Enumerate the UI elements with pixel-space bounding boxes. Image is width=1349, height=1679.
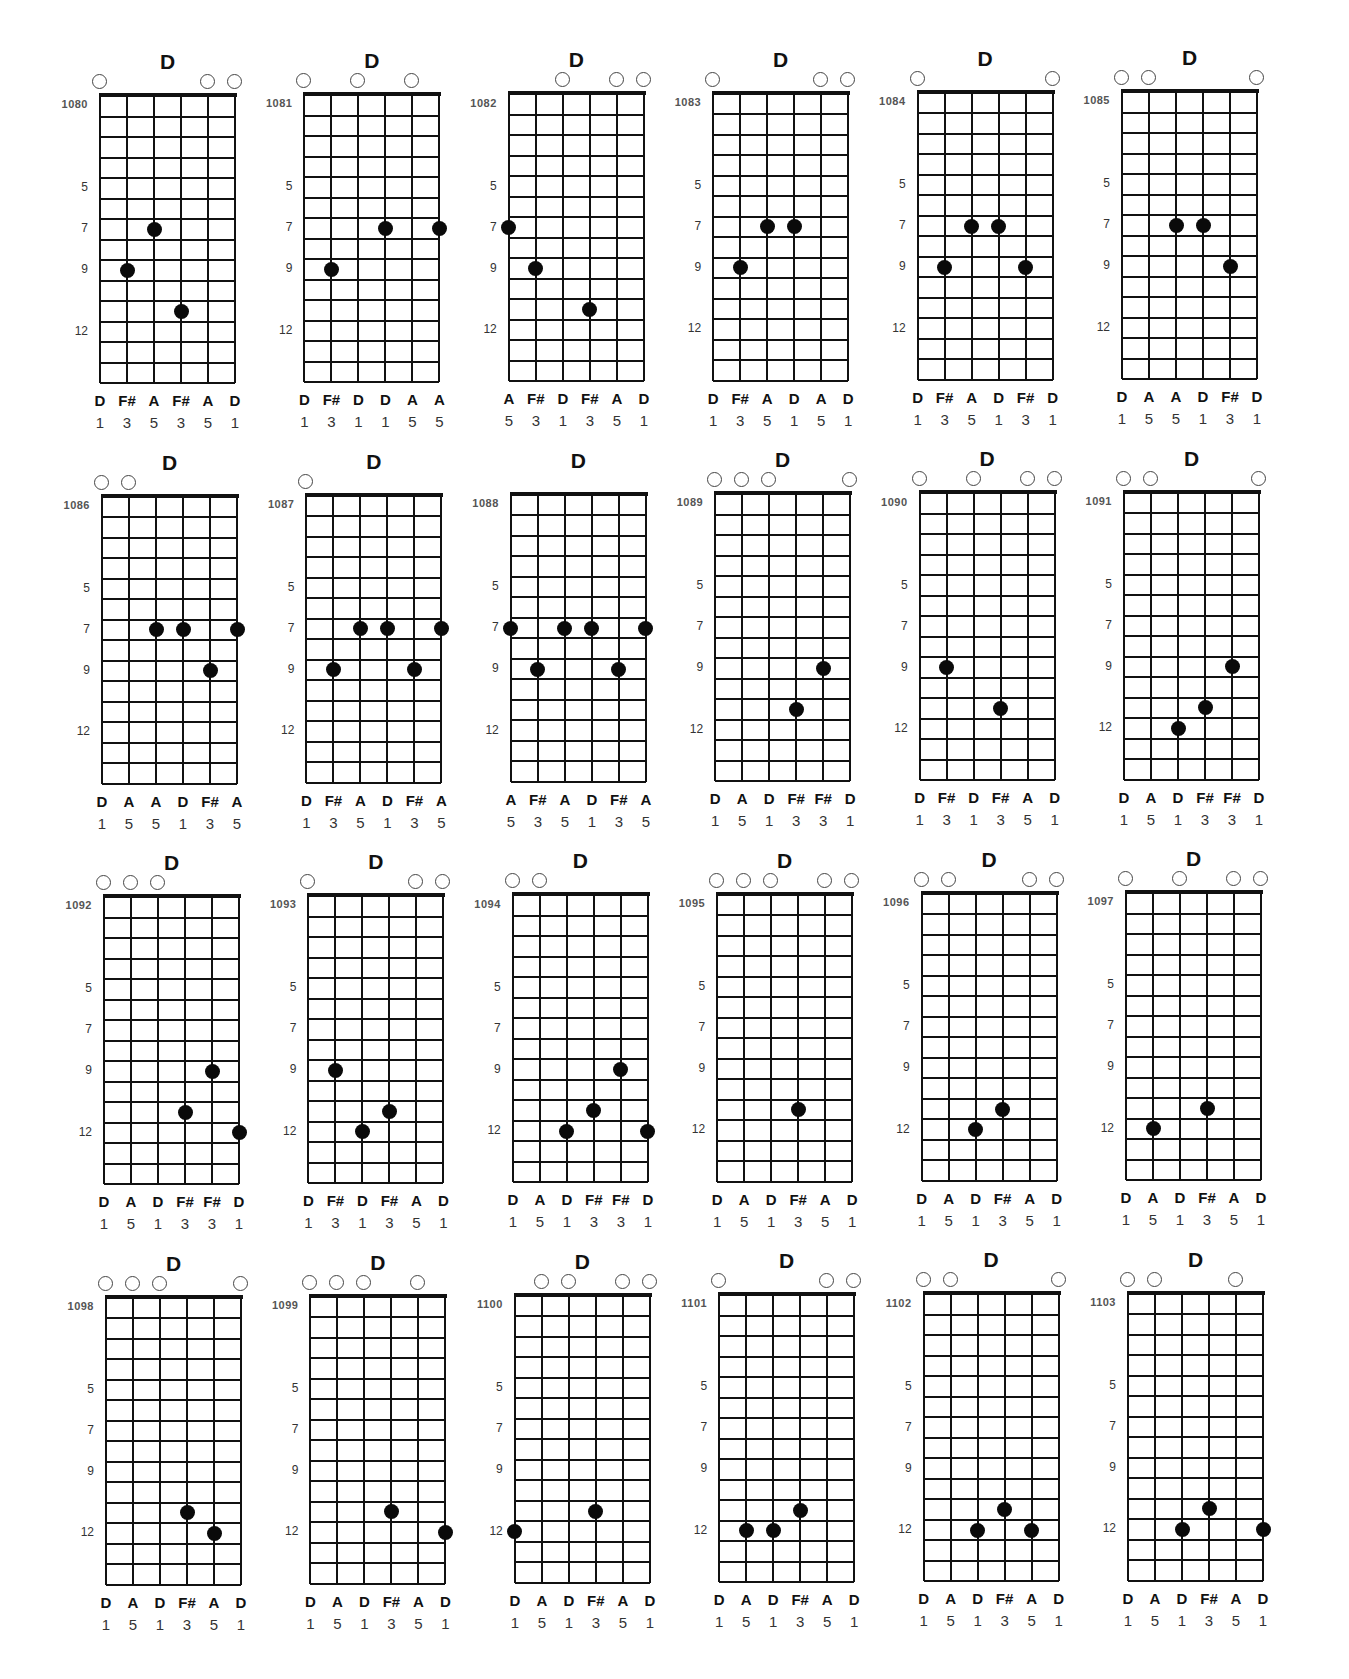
finger-dot-icon <box>559 1124 574 1139</box>
fret-marker-label: 12 <box>485 723 498 737</box>
fret-line <box>102 537 237 539</box>
fret-line <box>1122 112 1257 114</box>
interval-number-label: 1 <box>1114 1211 1138 1228</box>
chord-title: D <box>104 851 239 875</box>
interval-number-label: 5 <box>1143 1612 1167 1629</box>
string-note-label: F# <box>1218 388 1242 405</box>
chord-title: D <box>1122 46 1257 70</box>
finger-dot-icon <box>789 702 804 717</box>
fret-marker-label: 7 <box>701 1420 708 1434</box>
fret-line <box>920 574 1055 576</box>
fret-line <box>100 341 235 343</box>
open-string-circle-icon <box>94 475 109 490</box>
string-note-label: F# <box>198 793 222 810</box>
string-note-label: D <box>1249 1189 1273 1206</box>
fret-line <box>922 1139 1057 1141</box>
chord-diagram-1080: D108057912D1F#3A5F#3A5D1 <box>60 44 264 444</box>
interval-number-label: 3 <box>1195 1211 1219 1228</box>
interval-number-label: 3 <box>989 811 1013 828</box>
string-note-label: D <box>296 1192 320 1209</box>
chord-diagram-1084: D108457912D1F#3A5D1F#3D1 <box>878 41 1082 441</box>
fret-line <box>715 739 850 741</box>
finger-dot-icon <box>991 219 1006 234</box>
chord-diagram-1095: D109557912D1A5D1F#3A5D1 <box>677 843 881 1243</box>
open-string-circle-icon <box>1120 1272 1135 1287</box>
fret-marker-label: 5 <box>81 180 88 194</box>
fret-line <box>102 742 237 744</box>
fret-line <box>509 298 644 300</box>
nut <box>101 494 239 498</box>
diagram-number: 1089 <box>677 496 703 508</box>
nut <box>303 92 441 96</box>
string-note-label: F# <box>175 1594 199 1611</box>
interval-number-label: 1 <box>555 1213 579 1230</box>
fret-line <box>713 134 848 136</box>
fret-line <box>717 1058 852 1060</box>
fret-line <box>106 1502 241 1504</box>
finger-dot-icon <box>1146 1121 1161 1136</box>
finger-dot-icon <box>530 662 545 677</box>
fretboard-grid: 108557912D1A5A5D1F#3D1 <box>1122 92 1257 379</box>
finger-dot-icon <box>1024 1523 1039 1538</box>
fret-marker-label: 9 <box>494 1062 501 1076</box>
fret-marker-label: 5 <box>1107 977 1114 991</box>
fret-line <box>304 299 439 301</box>
fret-marker-label: 9 <box>290 1062 297 1076</box>
fret-marker-label: 7 <box>1107 1018 1114 1032</box>
fret-marker-label: 5 <box>1109 1378 1116 1392</box>
fret-line <box>918 194 1053 196</box>
fret-line <box>713 154 848 156</box>
string-note-label: D <box>223 392 247 409</box>
fret-line <box>511 576 646 578</box>
fret-marker-label: 12 <box>896 1122 909 1136</box>
fret-line <box>924 1457 1059 1459</box>
fret-marker-label: 12 <box>79 1125 92 1139</box>
open-string-circle-icon <box>1049 872 1064 887</box>
fret-line <box>511 760 646 762</box>
fret-line <box>511 719 646 721</box>
fret-line <box>515 1520 650 1522</box>
nut <box>99 93 237 97</box>
string-note-label: D <box>906 389 930 406</box>
interval-number-label: 1 <box>987 411 1011 428</box>
string-note-label: D <box>705 1191 729 1208</box>
diagram-number: 1080 <box>62 98 88 110</box>
chord-diagram-1088: D108857912A5F#3A5D1F#3A5 <box>471 443 675 843</box>
open-string-circle-icon <box>842 472 857 487</box>
fret-marker-label: 7 <box>288 621 295 635</box>
fret-marker-label: 9 <box>496 1462 503 1476</box>
finger-dot-icon <box>207 1526 222 1541</box>
string-note-label: D <box>1191 388 1215 405</box>
fret-line <box>922 1098 1057 1100</box>
string-note-label: A <box>611 1592 635 1609</box>
fret-line <box>513 1161 648 1163</box>
fretboard-grid: 109857912D1A5D1F#3A5D1 <box>106 1298 241 1585</box>
fret-line <box>104 1183 239 1185</box>
chord-title: D <box>715 448 850 472</box>
fret-line <box>308 936 443 938</box>
fret-line <box>308 977 443 979</box>
fret-line <box>310 1521 445 1523</box>
nut <box>1123 490 1261 494</box>
fret-line <box>1122 296 1257 298</box>
fret-line <box>924 1519 1059 1521</box>
interval-number-label: 5 <box>1016 811 1040 828</box>
string-note-label: D <box>503 1592 527 1609</box>
chord-diagram-1081: D108157912D1F#3D1D1A5A5 <box>264 43 468 443</box>
interval-number-label: 1 <box>557 1614 581 1631</box>
string-note-label: D <box>373 391 397 408</box>
fretboard-grid: 109957912D1A5D1F#3A5D1 <box>310 1297 445 1584</box>
fret-line <box>102 660 237 662</box>
string-note-label: D <box>292 391 316 408</box>
fretboard-grid: 110057912D1A5D1F#3A5D1 <box>515 1296 650 1583</box>
chord-title: D <box>306 450 441 474</box>
chord-diagram-1092: D109257912D1A5D1F#3F#3D1 <box>64 845 268 1245</box>
interval-number-label: 5 <box>119 1215 143 1232</box>
fret-line <box>513 956 648 958</box>
interval-number-label: 5 <box>755 412 779 429</box>
open-string-circle-icon <box>734 472 749 487</box>
interval-number-label: 3 <box>786 1213 810 1230</box>
fret-line <box>106 1399 241 1401</box>
string-note-label: D <box>759 1191 783 1208</box>
string-note-label: F# <box>935 789 959 806</box>
